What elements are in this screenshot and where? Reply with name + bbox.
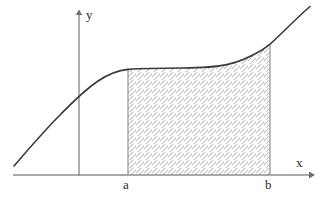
- integral-figure-svg: [0, 0, 326, 204]
- x-axis-label: x: [296, 156, 303, 169]
- lower-bound-label: a: [123, 178, 129, 191]
- shaded-region: [128, 44, 270, 175]
- figure-canvas: y x a b: [0, 0, 326, 204]
- y-axis: [76, 10, 82, 177]
- y-axis-label: y: [86, 8, 93, 21]
- upper-bound-label: b: [265, 178, 272, 191]
